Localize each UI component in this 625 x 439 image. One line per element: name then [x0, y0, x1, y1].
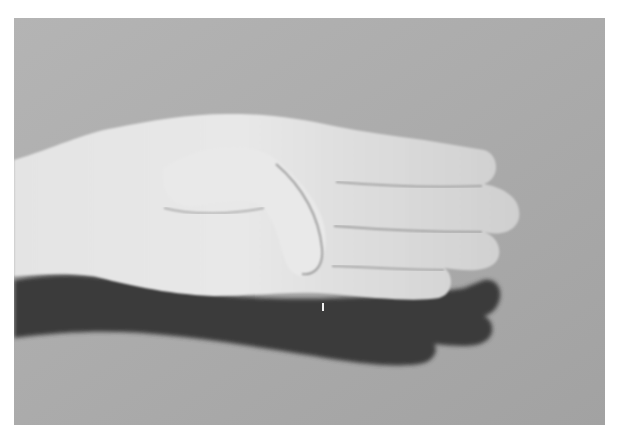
hand-photograph: [14, 18, 605, 425]
photo-canvas: [14, 18, 605, 425]
highlight-mark: [322, 303, 324, 311]
